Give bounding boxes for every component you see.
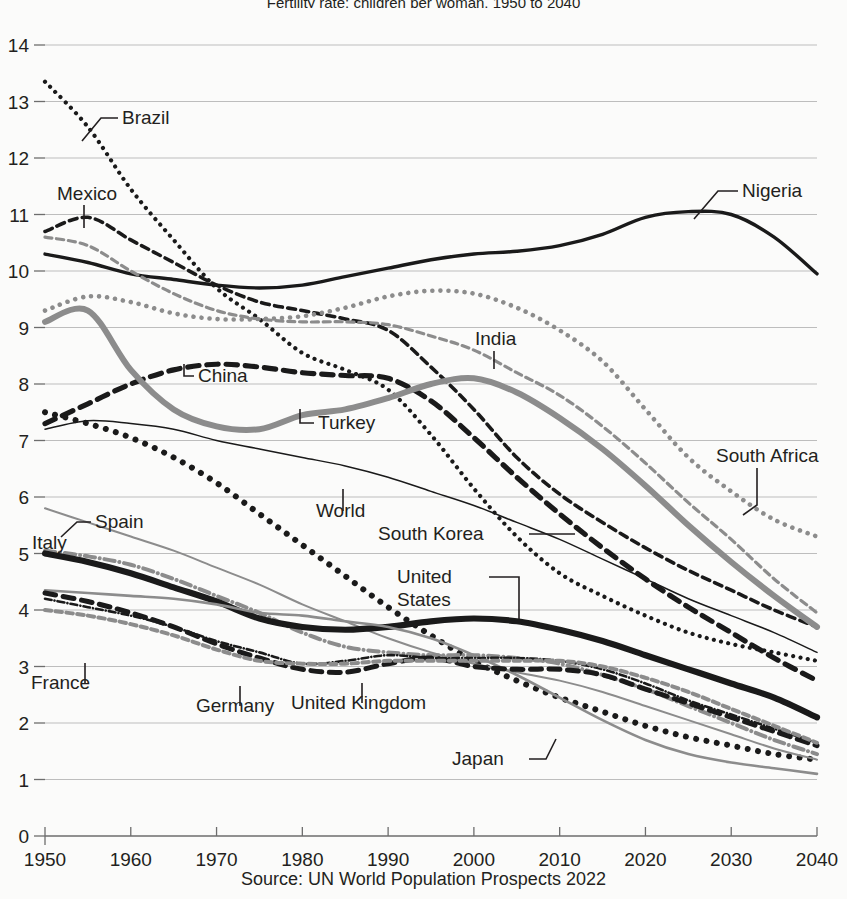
source-caption: Source: UN World Population Prospects 20… — [0, 869, 847, 890]
y-tick-0: 0 — [18, 826, 29, 847]
x-tick-2010: 2010 — [539, 849, 581, 870]
y-tick-5: 5 — [18, 544, 29, 565]
gridlines — [34, 45, 817, 836]
x-axis — [45, 827, 817, 845]
series-label-nigeria: Nigeria — [742, 180, 803, 201]
x-tick-2020: 2020 — [624, 849, 666, 870]
x-tick-1950: 1950 — [24, 849, 66, 870]
y-tick-1: 1 — [18, 770, 29, 791]
series-label-spain: Spain — [95, 511, 144, 532]
series-label-mexico: Mexico — [57, 183, 117, 204]
series-line-india — [45, 237, 817, 613]
y-tick-7: 7 — [18, 431, 29, 452]
y-tick-14: 14 — [8, 35, 30, 56]
y-tick-3: 3 — [18, 657, 29, 678]
leader-line-14 — [529, 739, 556, 759]
y-axis-tick-labels: 01234567891011121314 — [8, 35, 30, 847]
leader-line-9 — [489, 577, 519, 619]
series-label-united-states-line1: United — [397, 566, 452, 587]
series-label-germany: Germany — [196, 695, 275, 716]
series-label-france: France — [31, 672, 90, 693]
y-tick-9: 9 — [18, 318, 29, 339]
chart-page: Fertility rate: children per woman, 1950… — [0, 0, 847, 899]
x-tick-1980: 1980 — [281, 849, 323, 870]
series-label-italy: Italy — [32, 532, 67, 553]
series-label-india: India — [475, 328, 517, 349]
y-tick-10: 10 — [8, 261, 29, 282]
x-tick-1960: 1960 — [110, 849, 152, 870]
y-tick-12: 12 — [8, 148, 29, 169]
x-tick-2000: 2000 — [453, 849, 495, 870]
leader-line-0 — [82, 118, 118, 141]
fertility-line-chart: 01234567891011121314 1950196019701980199… — [0, 0, 847, 870]
series-label-china: China — [198, 365, 248, 386]
y-tick-4: 4 — [18, 600, 29, 621]
x-tick-1990: 1990 — [367, 849, 409, 870]
series-label-south-africa: South Africa — [716, 445, 819, 466]
series-label-turkey: Turkey — [318, 412, 376, 433]
x-axis-tick-labels: 1950196019701980199020002010202020302040 — [24, 849, 838, 870]
x-tick-2030: 2030 — [710, 849, 752, 870]
series-label-united-kingdom: United Kingdom — [291, 692, 426, 713]
series-label-united-states-line2: States — [397, 589, 451, 610]
y-tick-13: 13 — [8, 92, 29, 113]
y-tick-2: 2 — [18, 713, 29, 734]
y-tick-11: 11 — [9, 205, 29, 226]
x-tick-2040: 2040 — [796, 849, 838, 870]
series-label-brazil: Brazil — [122, 107, 170, 128]
y-tick-8: 8 — [18, 374, 29, 395]
y-tick-6: 6 — [18, 487, 29, 508]
series-line-spain — [45, 508, 817, 759]
series-label-japan: Japan — [452, 748, 504, 769]
series-label-world: World — [316, 500, 365, 521]
series-label-south-korea: South Korea — [378, 523, 484, 544]
series-lines — [45, 82, 817, 774]
x-tick-1970: 1970 — [195, 849, 237, 870]
